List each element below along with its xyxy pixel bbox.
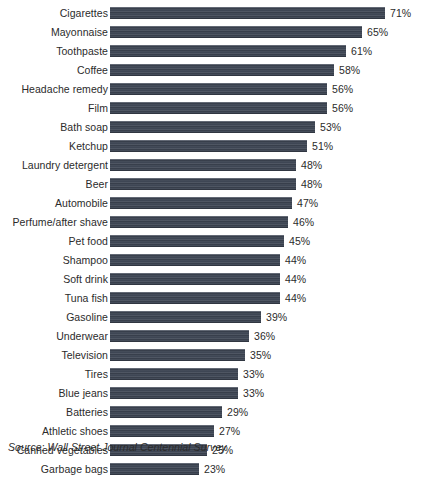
bar-track [110, 273, 280, 285]
bar-segment [110, 330, 249, 342]
bar-track [110, 254, 280, 266]
bar-row: Blue jeans33% [0, 386, 426, 405]
bar-category-label: Blue jeans [58, 386, 108, 401]
bar-value-label: 48% [301, 158, 322, 173]
bar-segment [110, 387, 238, 399]
bar-track [110, 235, 284, 247]
bar-segment [110, 7, 385, 19]
bar-category-label: Garbage bags [41, 462, 108, 477]
bar-track [110, 159, 296, 171]
bar-value-label: 47% [297, 196, 318, 211]
bar-segment [110, 140, 307, 152]
bar-segment [110, 368, 238, 380]
bar-row: Ketchup51% [0, 139, 426, 158]
chart-plot-area: Cigarettes71%Mayonnaise65%Toothpaste61%C… [0, 6, 426, 479]
bar-row: Tires33% [0, 367, 426, 386]
bar-row: Mayonnaise65% [0, 25, 426, 44]
bar-segment [110, 26, 362, 38]
bar-category-label: Ketchup [69, 139, 108, 154]
bar-category-label: Beer [86, 177, 108, 192]
bar-track [110, 349, 245, 361]
bar-value-label: 53% [320, 120, 341, 135]
bar-row: Pet food45% [0, 234, 426, 253]
bar-segment [110, 254, 280, 266]
bar-value-label: 46% [293, 215, 314, 230]
bar-value-label: 56% [332, 101, 353, 116]
bar-segment [110, 121, 315, 133]
bar-segment [110, 311, 261, 323]
bar-track [110, 330, 249, 342]
bar-row: Laundry detergent48% [0, 158, 426, 177]
bar-track [110, 216, 288, 228]
bar-track [110, 425, 214, 437]
bar-category-label: Toothpaste [56, 44, 108, 59]
bar-value-label: 35% [250, 348, 271, 363]
bar-row: Perfume/after shave46% [0, 215, 426, 234]
bar-category-label: Soft drink [63, 272, 108, 287]
chart-source-note: Source: Wall Street Journal Centennial S… [8, 441, 227, 453]
bar-category-label: Shampoo [63, 253, 108, 268]
bar-category-label: Television [61, 348, 108, 363]
bar-category-label: Headache remedy [21, 82, 108, 97]
bar-category-label: Bath soap [60, 120, 108, 135]
bar-value-label: 29% [227, 405, 248, 420]
bar-row: Tuna fish44% [0, 291, 426, 310]
bar-value-label: 23% [204, 462, 225, 477]
bar-segment [110, 197, 292, 209]
bar-track [110, 140, 307, 152]
bar-row: Toothpaste61% [0, 44, 426, 63]
bar-segment [110, 349, 245, 361]
bar-segment [110, 45, 346, 57]
bar-value-label: 44% [285, 291, 306, 306]
bar-value-label: 44% [285, 253, 306, 268]
bar-value-label: 58% [339, 63, 360, 78]
bar-category-label: Perfume/after shave [13, 215, 109, 230]
bar-segment [110, 83, 327, 95]
bar-track [110, 102, 327, 114]
bar-row: Underwear36% [0, 329, 426, 348]
bar-value-label: 61% [351, 44, 372, 59]
bar-segment [110, 216, 288, 228]
bar-category-label: Automobile [55, 196, 108, 211]
bar-segment [110, 425, 214, 437]
bar-row: Beer48% [0, 177, 426, 196]
bar-row: Film56% [0, 101, 426, 120]
bar-row: Gasoline39% [0, 310, 426, 329]
bar-category-label: Laundry detergent [22, 158, 108, 173]
bar-row: Automobile47% [0, 196, 426, 215]
bar-track [110, 197, 292, 209]
bar-track [110, 64, 334, 76]
bar-track [110, 292, 280, 304]
bar-track [110, 463, 199, 475]
bar-row: Bath soap53% [0, 120, 426, 139]
bar-row: Soft drink44% [0, 272, 426, 291]
bar-segment [110, 235, 284, 247]
bar-track [110, 178, 296, 190]
bar-value-label: 51% [312, 139, 333, 154]
bar-category-label: Pet food [68, 234, 108, 249]
bar-track [110, 83, 327, 95]
bar-value-label: 27% [219, 424, 240, 439]
bar-value-label: 65% [367, 25, 388, 40]
bar-row: Television35% [0, 348, 426, 367]
bar-segment [110, 273, 280, 285]
bar-track [110, 45, 346, 57]
bar-category-label: Tires [85, 367, 108, 382]
bar-segment [110, 102, 327, 114]
bar-row: Headache remedy56% [0, 82, 426, 101]
bar-track [110, 121, 315, 133]
bar-value-label: 33% [243, 386, 264, 401]
bar-value-label: 39% [266, 310, 287, 325]
bar-row: Batteries29% [0, 405, 426, 424]
bar-category-label: Film [88, 101, 108, 116]
bar-value-label: 33% [243, 367, 264, 382]
bar-segment [110, 463, 199, 475]
bar-category-label: Athletic shoes [42, 424, 108, 439]
bar-segment [110, 292, 280, 304]
bar-track [110, 311, 261, 323]
bar-category-label: Coffee [77, 63, 108, 78]
bar-segment [110, 178, 296, 190]
bar-track [110, 7, 385, 19]
bar-category-label: Cigarettes [60, 6, 108, 21]
